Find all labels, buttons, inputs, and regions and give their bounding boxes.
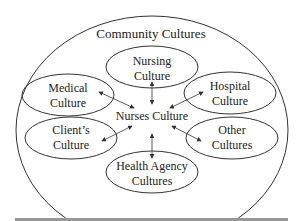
community-cultures-label: Community Cultures xyxy=(96,26,205,41)
node-medical-culture: Medical Culture xyxy=(22,74,114,116)
arrow-medical xyxy=(99,92,134,108)
bottom-rule xyxy=(15,218,288,221)
svg-text:Culture: Culture xyxy=(212,94,248,108)
svg-text:Cultures: Cultures xyxy=(212,138,253,152)
arrow-hospital xyxy=(170,92,203,108)
nurses-culture-label: Nurses Culture xyxy=(116,109,188,123)
svg-text:Client’s: Client’s xyxy=(52,123,90,137)
svg-text:Culture: Culture xyxy=(53,138,89,152)
node-other-cultures: Other Cultures xyxy=(186,117,278,159)
node-nursing-culture: Nursing Culture xyxy=(106,46,198,88)
svg-text:Other: Other xyxy=(218,123,245,137)
node-clients-culture: Client’s Culture xyxy=(25,117,117,159)
svg-text:Cultures: Cultures xyxy=(132,174,173,188)
svg-text:Hospital: Hospital xyxy=(210,79,251,93)
culture-diagram: Community Cultures Nursing Culture Medic… xyxy=(0,0,303,221)
svg-text:Nursing: Nursing xyxy=(133,54,172,68)
svg-text:Medical: Medical xyxy=(48,81,88,95)
node-hospital-culture: Hospital Culture xyxy=(184,72,276,114)
svg-text:Culture: Culture xyxy=(134,69,170,83)
svg-text:Health Agency: Health Agency xyxy=(116,159,188,173)
svg-text:Culture: Culture xyxy=(50,96,86,110)
